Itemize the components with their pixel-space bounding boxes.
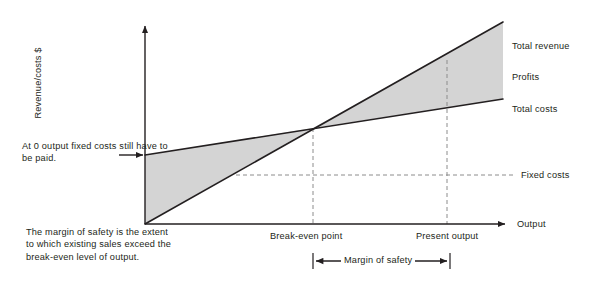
profits-label: Profits [512, 71, 539, 83]
total-revenue-label: Total revenue [512, 40, 570, 52]
fixed-costs-label: Fixed costs [521, 169, 570, 181]
total-costs-line [145, 99, 503, 155]
break-even-chart-figure: Revenue/costs $ Output Total revenue Pro… [0, 0, 600, 294]
present-output-label: Present output [416, 230, 478, 242]
fixed-costs-annotation: At 0 output fixed costs still have to be… [22, 140, 172, 165]
margin-of-safety-annotation: The margin of safety is the extent to wh… [26, 226, 176, 263]
x-axis-title: Output [517, 218, 546, 230]
break-even-point-label: Break-even point [270, 230, 342, 242]
total-revenue-line [145, 22, 503, 224]
total-costs-label: Total costs [512, 103, 557, 115]
margin-of-safety-label: Margin of safety [341, 254, 415, 266]
y-axis-title: Revenue/costs $ [33, 23, 43, 143]
